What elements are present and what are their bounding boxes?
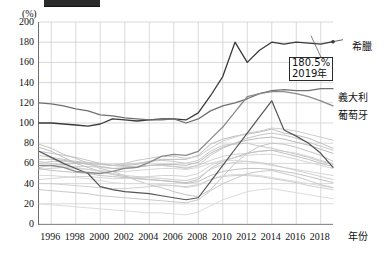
- y-axis-tick: 180: [8, 37, 34, 47]
- y-axis-tick: 160: [8, 57, 34, 67]
- cropped-title-bar: [44, 0, 100, 7]
- chart-canvas: (%) 020406080100120140160180200 19961998…: [0, 0, 389, 254]
- y-axis-tick: 100: [8, 118, 34, 128]
- y-axis-tick: 0: [8, 219, 34, 229]
- series-label-greece: 希臘: [352, 41, 372, 52]
- y-axis-tick: 80: [8, 138, 34, 148]
- callout-year: 2019年: [292, 69, 330, 80]
- y-axis-tick: 200: [8, 17, 34, 27]
- y-axis-tick: 120: [8, 98, 34, 108]
- x-axis-unit-label: 年份: [348, 232, 368, 242]
- y-axis-tick: 20: [8, 199, 34, 209]
- x-axis-tick: 2018: [303, 232, 337, 242]
- series-label-portugal: 葡萄牙: [338, 110, 369, 121]
- y-axis-tick: 140: [8, 78, 34, 88]
- value-callout: 180.5% 2019年: [289, 57, 333, 81]
- callout-value: 180.5%: [292, 58, 330, 69]
- plot-area: [38, 22, 333, 225]
- y-axis-tick: 40: [8, 179, 34, 189]
- chart-lines: [39, 22, 333, 224]
- series-label-italy: 義大利: [338, 92, 369, 103]
- y-axis-tick: 60: [8, 158, 34, 168]
